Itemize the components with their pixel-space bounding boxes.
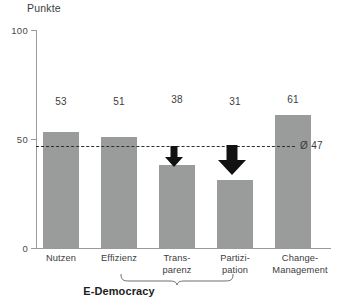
bar-value-nutzen: 53 <box>43 96 79 107</box>
category-label-transparenz: Trans- parenz <box>151 253 203 276</box>
bar-effizienz[interactable] <box>101 137 137 248</box>
y-axis-title: Punkte <box>27 2 61 14</box>
bar-value-change-management: 61 <box>275 94 311 105</box>
bar-nutzen[interactable] <box>43 132 79 248</box>
group-label-e-democracy: E-Democracy <box>0 285 341 297</box>
group-label-text: E-Democracy <box>83 285 154 297</box>
category-label-effizienz-line1: Effizienz <box>93 253 145 265</box>
category-label-change-management-line1: Change- <box>262 253 338 265</box>
bar-partizipation[interactable] <box>217 180 253 248</box>
category-label-effizienz: Effizienz <box>93 253 145 265</box>
category-label-partizipation: Partizi- pation <box>209 253 261 276</box>
y-tick-mark-100 <box>31 30 36 31</box>
x-axis-line <box>36 248 331 249</box>
category-label-change-management-line2: Management <box>262 265 338 277</box>
y-tick-label-0: 0 <box>2 243 28 254</box>
category-label-partizipation-line1: Partizi- <box>209 253 261 265</box>
bar-value-effizienz: 51 <box>101 96 137 107</box>
category-label-nutzen-line1: Nutzen <box>35 253 87 265</box>
y-tick-mark-0 <box>31 248 36 249</box>
down-arrow-icon-partizipation <box>217 145 247 178</box>
category-label-transparenz-line1: Trans- <box>151 253 203 265</box>
bar-transparenz[interactable] <box>159 165 195 248</box>
down-arrow-icon-transparenz <box>164 146 184 170</box>
average-label: Ø 47 <box>300 140 323 151</box>
y-tick-label-100: 100 <box>2 25 28 36</box>
category-label-nutzen: Nutzen <box>35 253 87 265</box>
bar-chart: Punkte 100 50 0 53 51 38 31 61 Ø 47 Nutz… <box>0 0 341 305</box>
y-tick-label-50: 50 <box>2 134 28 145</box>
bar-change-management[interactable] <box>275 115 311 248</box>
y-tick-mark-50 <box>31 139 36 140</box>
category-label-change-management: Change- Management <box>262 253 338 276</box>
bar-value-partizipation: 31 <box>217 96 253 107</box>
bar-value-transparenz: 38 <box>159 94 195 105</box>
y-axis-line <box>36 30 37 248</box>
